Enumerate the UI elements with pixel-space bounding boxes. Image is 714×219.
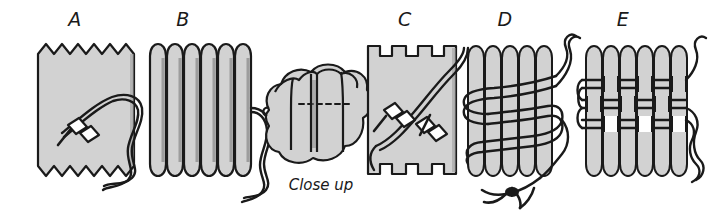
thread-e-top-tail bbox=[686, 37, 706, 80]
panel-d bbox=[460, 0, 590, 219]
panel-a bbox=[0, 0, 150, 219]
thread-d-top-tail bbox=[556, 35, 576, 76]
panel-e-illustration bbox=[578, 0, 714, 219]
thread-d-top-tail-2 bbox=[556, 37, 580, 86]
thread-e-right-tail-1 bbox=[686, 108, 703, 180]
panel-e bbox=[578, 0, 714, 219]
figure-canvas: A B C D E bbox=[0, 0, 714, 219]
pleated-fabric-b bbox=[150, 44, 251, 176]
panel-d-illustration bbox=[460, 0, 590, 219]
knot-core-d bbox=[505, 187, 519, 197]
fabric-piece-a bbox=[38, 44, 134, 176]
fabric-piece-c bbox=[368, 46, 456, 174]
closeup-caption: Close up bbox=[271, 176, 371, 194]
panel-a-illustration bbox=[0, 0, 150, 219]
